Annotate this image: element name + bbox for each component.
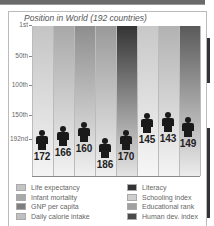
legend-item: Human dev. index: [127, 212, 198, 222]
chart-title: Position in World (192 countries): [24, 13, 147, 23]
legend-label: Life expectancy: [31, 184, 80, 191]
top-divider: [0, 0, 205, 5]
person-icon: [181, 117, 195, 137]
value-label: 149: [175, 138, 201, 149]
bar-educational-rank: [158, 26, 179, 176]
legend-swatch: [127, 194, 137, 201]
person-icon: [161, 112, 175, 132]
legend-item: Schooling index: [127, 193, 198, 203]
legend-label: Infant mortality: [31, 194, 77, 201]
legend-label: Literacy: [142, 184, 167, 191]
y-tick-label: 100th: [12, 81, 28, 88]
person-icon: [98, 138, 112, 158]
legend-swatch: [127, 203, 137, 210]
person-icon: [119, 130, 133, 150]
y-tick-label: 150th: [12, 111, 28, 118]
value-label: 160: [71, 143, 97, 154]
legend-label: Educational rank: [142, 203, 194, 210]
legend-right: Literacy Schooling index Educational ran…: [127, 183, 198, 221]
legend-label: Schooling index: [142, 194, 191, 201]
legend-item: Literacy: [127, 183, 198, 193]
legend-item: Educational rank: [127, 202, 198, 212]
y-tick-label: 192nd: [10, 135, 28, 142]
y-tick-label: 50th: [15, 52, 28, 59]
legend-left: Life expectancy Infant mortality GNP per…: [16, 183, 90, 221]
person-icon: [77, 122, 91, 142]
person-icon: [35, 130, 49, 150]
legend-swatch: [16, 213, 26, 220]
legend-swatch: [127, 184, 137, 191]
legend-item: Daily calorie intake: [16, 212, 90, 222]
legend-swatch: [16, 194, 26, 201]
edge-bar: [207, 128, 210, 218]
person-icon: [56, 126, 70, 146]
legend-label: Human dev. index: [142, 213, 198, 220]
legend-item: Infant mortality: [16, 193, 90, 203]
value-label: 170: [113, 151, 139, 162]
legend-label: Daily calorie intake: [31, 213, 90, 220]
legend-swatch: [16, 203, 26, 210]
legend-item: Life expectancy: [16, 183, 90, 193]
edge-bar: [207, 38, 210, 83]
legend-label: GNP per capita: [31, 203, 79, 210]
legend-item: GNP per capita: [16, 202, 90, 212]
y-tick-label: 1st: [19, 21, 28, 28]
bar-human-dev-index: [179, 26, 201, 176]
legend-swatch: [16, 184, 26, 191]
legend-swatch: [127, 213, 137, 220]
person-icon: [140, 113, 154, 133]
bar-schooling-index: [137, 26, 158, 176]
